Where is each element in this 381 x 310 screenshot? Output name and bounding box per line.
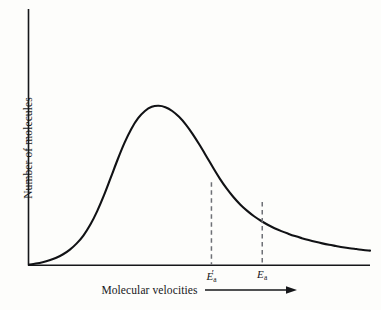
molecular-velocity-distribution-figure: Number of molecules Molecular velocities…: [0, 0, 381, 310]
ea-prime-subscript: a: [213, 275, 216, 284]
y-axis-title: Number of molecules: [22, 68, 34, 228]
x-tick-label-ea: Ea: [257, 268, 267, 282]
ea-subscript: a: [264, 273, 267, 282]
arrow-right-icon: [205, 285, 297, 295]
x-axis-title: Molecular velocities: [101, 284, 197, 296]
chart-svg: [0, 0, 381, 310]
distribution-curve: [29, 106, 370, 265]
x-tick-label-ea-prime: E′a: [206, 268, 216, 284]
x-axis-title-group: Molecular velocities: [28, 284, 370, 296]
ea-symbol: E: [257, 268, 264, 280]
